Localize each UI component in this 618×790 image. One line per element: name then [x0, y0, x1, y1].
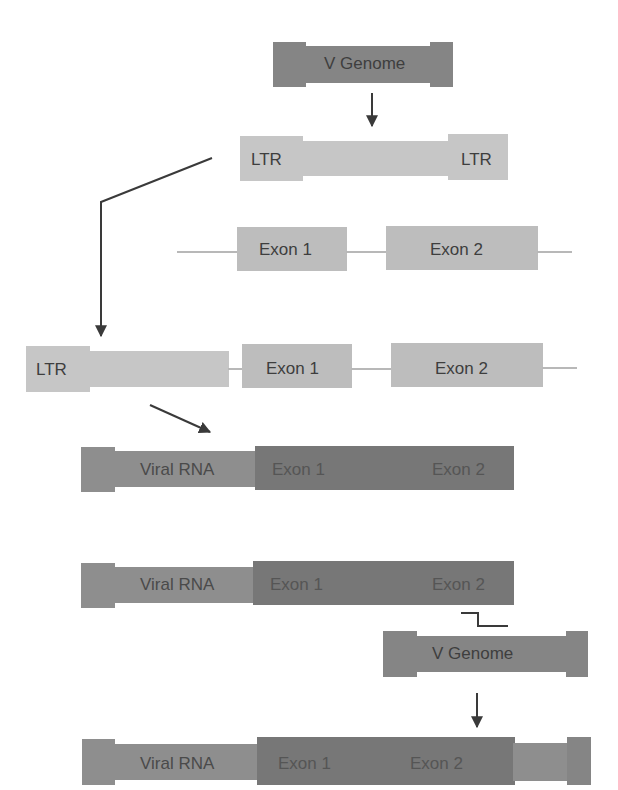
- step-line: [461, 613, 508, 626]
- elbow-arrow: [101, 158, 212, 336]
- connector-arrows: [0, 0, 618, 790]
- arrow-diagonal: [150, 405, 210, 432]
